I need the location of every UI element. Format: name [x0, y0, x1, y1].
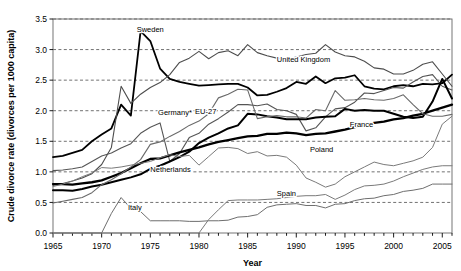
series-label-poland: Poland — [310, 145, 333, 154]
xtick-label-1965: 1965 — [44, 241, 63, 251]
ytick-label-3.5: 3.5 — [35, 14, 47, 24]
line-chart-figure: 0.00.51.01.52.02.53.03.51965197019751980… — [0, 0, 461, 271]
ytick-label-1.5: 1.5 — [35, 136, 47, 146]
series-label-eu-27: EU-27 — [195, 107, 216, 116]
series-label-france: France — [350, 120, 373, 129]
xtick-label-1990: 1990 — [287, 241, 306, 251]
series-label-italy: Italy — [128, 203, 142, 212]
xtick-label-2005: 2005 — [433, 241, 452, 251]
ytick-label-3.0: 3.0 — [35, 45, 47, 55]
chart-svg: 0.00.51.01.52.02.53.03.51965197019751980… — [0, 0, 461, 271]
x-axis-title: Year — [243, 258, 263, 268]
xtick-label-1980: 1980 — [190, 241, 209, 251]
xtick-label-1975: 1975 — [141, 241, 160, 251]
y-axis-title: Crude divorce rate (divorces per 1000 ca… — [6, 30, 16, 223]
series-label-germany: Germany* — [158, 108, 192, 117]
xtick-label-1995: 1995 — [335, 241, 354, 251]
xtick-label-2000: 2000 — [384, 241, 403, 251]
chart-page: 0.00.51.01.52.02.53.03.51965197019751980… — [0, 0, 461, 271]
ytick-label-2.5: 2.5 — [35, 75, 47, 85]
series-label-netherlands: Netherlands — [150, 165, 191, 174]
ytick-label-2.0: 2.0 — [35, 106, 47, 116]
series-label-sweden: Sweden — [137, 25, 164, 34]
ytick-label-0.0: 0.0 — [35, 228, 47, 238]
xtick-label-1970: 1970 — [92, 241, 111, 251]
ytick-label-1.0: 1.0 — [35, 167, 47, 177]
series-label-spain: Spain — [277, 189, 296, 198]
series-label-united-kingdom: United Kingdom — [277, 55, 330, 64]
xtick-label-1985: 1985 — [238, 241, 257, 251]
ytick-label-0.5: 0.5 — [35, 198, 47, 208]
